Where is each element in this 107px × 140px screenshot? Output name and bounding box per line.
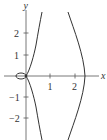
left-branch-lower-curve (26, 76, 42, 140)
y-tick-label-2: 2 (14, 28, 19, 39)
curve-plot: 1 2 2 1 −1 −2 x y (0, 0, 107, 140)
y-tick-label-m2: −2 (9, 113, 20, 124)
x-axis-label: x (100, 70, 106, 81)
left-branch-upper-curve (26, 12, 42, 76)
y-tick-label-1: 1 (14, 50, 19, 61)
x-tick-label-1: 1 (48, 81, 53, 92)
x-tick-label-2: 2 (72, 81, 77, 92)
y-axis-label: y (23, 0, 29, 11)
y-tick-label-m1: −1 (9, 92, 20, 103)
